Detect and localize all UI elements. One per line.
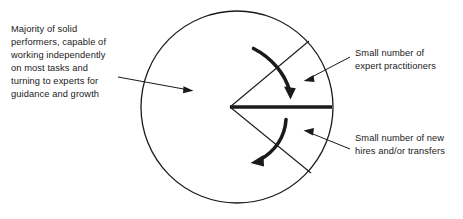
- experts-callout-arrowhead: [304, 75, 315, 82]
- label-expert-practitioners: Small number of expert practitioners: [355, 47, 460, 73]
- lower-curved-arrow-shaft: [260, 120, 287, 161]
- upper-wedge-line: [230, 41, 309, 107]
- lower-wedge-line: [230, 107, 311, 173]
- diagram-canvas: Majority of solid performers, capable of…: [0, 0, 463, 219]
- newhires-callout-arrowhead: [304, 128, 315, 136]
- label-new-hires-transfers: Small number of new hires and/or transfe…: [355, 132, 463, 158]
- experts-callout-line: [308, 57, 350, 79]
- upper-curved-arrow-head: [284, 87, 296, 100]
- upper-curved-arrow-shaft: [254, 49, 290, 91]
- lower-curved-arrow-head: [251, 155, 265, 167]
- label-majority-solid-performers: Majority of solid performers, capable of…: [11, 23, 136, 102]
- majority-callout-arrowhead: [183, 86, 194, 93]
